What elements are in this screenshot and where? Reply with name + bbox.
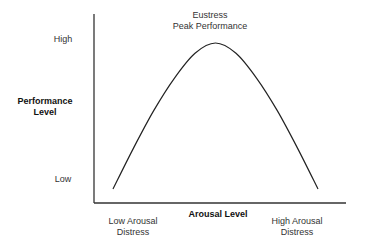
x-tick-low-line2: Distress — [100, 227, 166, 238]
peak-annotation: Eustress Peak Performance — [160, 10, 260, 32]
peak-annotation-line1: Eustress — [160, 10, 260, 21]
y-axis-label-line2: Level — [10, 107, 80, 118]
x-tick-high: High Arousal Distress — [262, 216, 332, 238]
performance-curve — [113, 43, 318, 189]
y-axis-label: Performance Level — [10, 96, 80, 118]
x-tick-high-line2: Distress — [262, 227, 332, 238]
x-axis-label: Arousal Level — [183, 209, 253, 220]
peak-annotation-line2: Peak Performance — [160, 21, 260, 32]
y-tick-low: Low — [48, 174, 78, 185]
y-tick-high: High — [48, 34, 78, 45]
inverted-u-chart: High Low Performance Level Eustress Peak… — [0, 0, 365, 250]
x-tick-low: Low Arousal Distress — [100, 216, 166, 238]
x-tick-low-line1: Low Arousal — [100, 216, 166, 227]
x-tick-high-line1: High Arousal — [262, 216, 332, 227]
y-axis-label-line1: Performance — [10, 96, 80, 107]
